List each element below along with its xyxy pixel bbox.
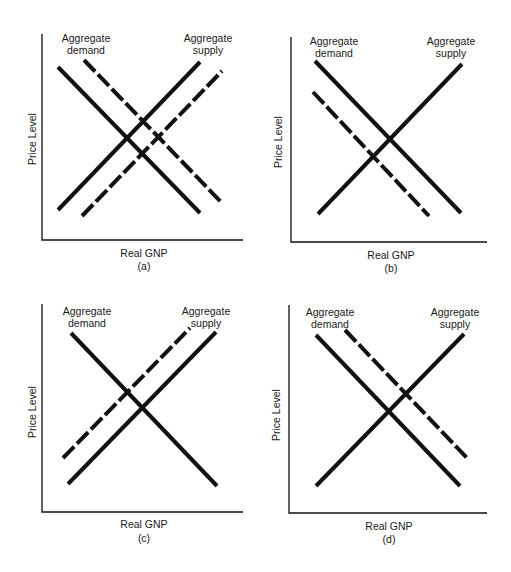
label-line: Aggregate	[57, 305, 117, 317]
panel-b-ad-solid	[315, 61, 461, 213]
label-line: demand	[304, 47, 364, 59]
panel-b-ad-label: Aggregate demand	[304, 35, 364, 59]
panel-a-plot	[42, 34, 243, 240]
label-line: Aggregate	[300, 306, 360, 318]
panel-c-ylabel: Price Level	[26, 382, 38, 442]
label-line: demand	[300, 318, 360, 330]
label-line: demand	[57, 317, 117, 329]
panel-d-ad-label: Aggregate demand	[300, 306, 360, 330]
label-line: supply	[178, 44, 238, 56]
panel-d-ylabel: Price Level	[270, 385, 282, 445]
label-line: Aggregate	[421, 35, 481, 47]
panel-b-ylabel: Price Level	[272, 112, 284, 172]
panel-d-xlabel: Real GNP	[359, 520, 419, 532]
panel-d-caption: (d)	[359, 533, 419, 545]
panel-a-ad-dashed	[84, 60, 222, 203]
panel-a-as-dashed	[82, 71, 222, 216]
label-line: Aggregate	[178, 32, 238, 44]
panel-a-axes	[42, 34, 243, 240]
figure-canvas	[0, 0, 511, 572]
panel-c-ad-label: Aggregate demand	[57, 305, 117, 329]
panel-b-caption: (b)	[361, 262, 421, 274]
panel-d-as-label: Aggregate supply	[425, 306, 485, 330]
panel-c-as-label: Aggregate supply	[176, 305, 236, 329]
label-line: Aggregate	[176, 305, 236, 317]
panel-a-as-solid	[58, 62, 200, 210]
label-line: supply	[421, 47, 481, 59]
panel-a-ad-label: Aggregate demand	[56, 32, 116, 56]
panel-b-plot	[291, 37, 487, 242]
panel-c-caption: (c)	[114, 532, 174, 544]
panel-b-xlabel: Real GNP	[361, 249, 421, 261]
label-line: demand	[56, 44, 116, 56]
label-line: Aggregate	[56, 32, 116, 44]
label-line: Aggregate	[425, 306, 485, 318]
panel-a-as-label: Aggregate supply	[178, 32, 238, 56]
panel-a-caption: (a)	[114, 260, 174, 272]
panel-a-xlabel: Real GNP	[114, 247, 174, 259]
panel-a-ad-solid	[58, 67, 200, 213]
panel-c-xlabel: Real GNP	[114, 518, 174, 530]
label-line: Aggregate	[304, 35, 364, 47]
panel-b-ad-dashed	[313, 92, 429, 216]
panel-b-as-label: Aggregate supply	[421, 35, 481, 59]
label-line: supply	[176, 317, 236, 329]
panel-a-ylabel: Price Level	[26, 109, 38, 169]
label-line: supply	[425, 318, 485, 330]
panel-d-plot	[289, 305, 487, 513]
panel-c-plot	[42, 304, 243, 512]
